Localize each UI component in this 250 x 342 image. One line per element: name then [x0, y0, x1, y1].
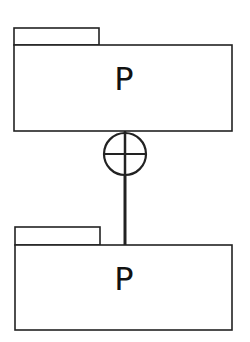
containment-connector — [104, 131, 146, 245]
package-top[interactable]: P — [14, 28, 232, 131]
package-diagram: P P — [0, 0, 250, 342]
package-top-label: P — [114, 60, 133, 98]
circle-plus-icon — [104, 131, 146, 176]
package-bottom-label: P — [114, 260, 133, 298]
package-top-tab — [14, 28, 99, 45]
package-bottom-tab — [15, 227, 100, 245]
